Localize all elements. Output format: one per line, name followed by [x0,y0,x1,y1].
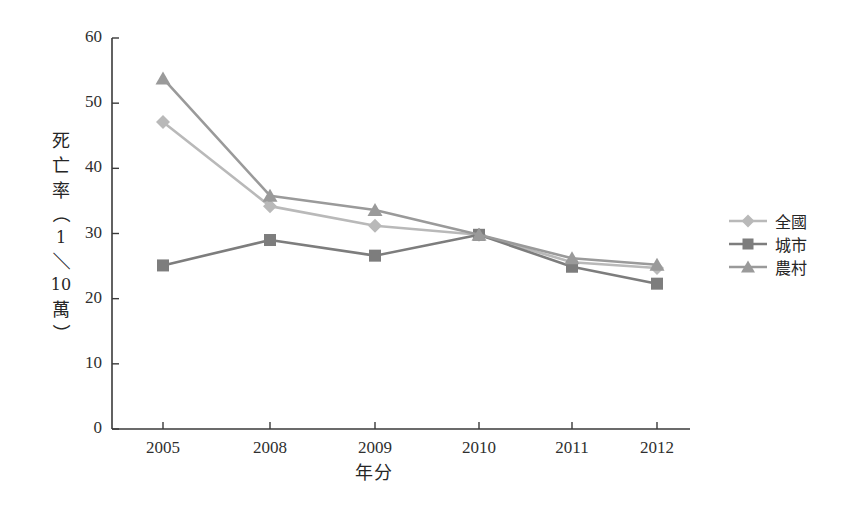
legend-label: 全國 [775,209,807,233]
y-axis-tick-label: 10 [64,353,102,373]
line-chart: 0102030405060 200520082009201020112012 死… [0,0,846,522]
legend-item-城市: 城市 [727,232,807,255]
series-line [163,122,657,268]
y-axis-title-char: 亡 [46,153,76,178]
data-point-marker [651,278,663,290]
x-axis-tick-label: 2012 [622,438,692,458]
legend-label: 城市 [775,232,807,256]
legend-marker-square-icon [727,234,769,254]
y-axis-tick-label: 0 [64,418,102,438]
x-axis-tick-label: 2005 [128,438,198,458]
x-axis-tick-label: 2009 [340,438,410,458]
x-axis-tick-label: 2010 [444,438,514,458]
x-axis-title: 年分 [355,458,393,484]
legend-marker-diamond-icon [727,211,769,231]
y-axis-title-char: （ [50,199,72,229]
axes [112,38,690,429]
series-全國 [156,115,664,275]
y-axis-tick-label: 60 [64,27,102,47]
series-line [163,78,657,264]
data-point-marker [157,259,169,271]
y-axis-title-char: 死 [46,128,76,153]
y-axis-title: 死亡率（1／10萬） [46,128,76,344]
legend-marker-triangle-icon [727,257,769,277]
legend-item-農村: 農村 [727,255,807,278]
data-point-marker [156,71,171,84]
legend-label: 農村 [775,255,807,279]
chart-plot-area [0,0,846,522]
series-農村 [156,71,665,270]
legend-item-全國: 全國 [727,209,807,232]
x-axis-tick-label: 2008 [235,438,305,458]
x-axis-tick-label: 2011 [537,438,607,458]
y-axis-title-char: ） [50,318,72,348]
y-axis-tick-label: 50 [64,92,102,112]
chart-legend: 全國城市農村 [727,209,807,278]
data-point-marker [368,219,382,233]
y-axis-title-char: ／ [50,246,72,276]
data-series-group [156,71,665,289]
data-point-marker [264,234,276,246]
data-point-marker [369,250,381,262]
